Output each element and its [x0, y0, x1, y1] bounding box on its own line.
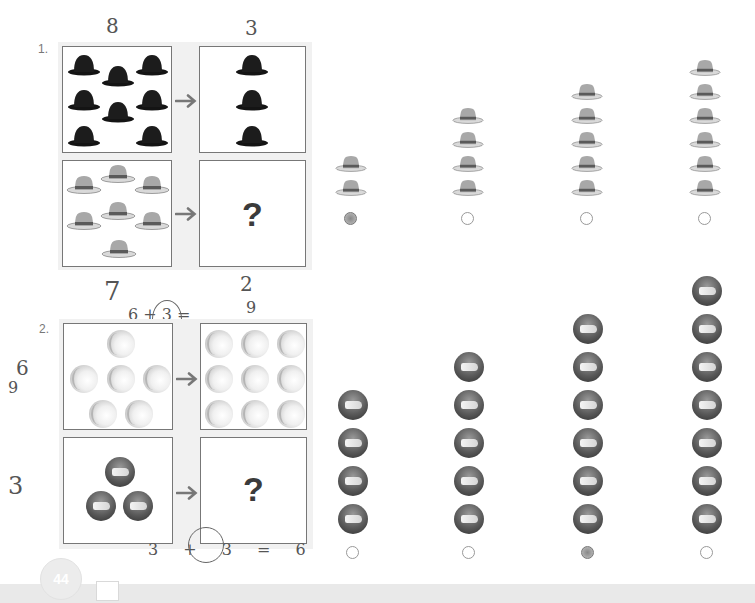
- option-radio[interactable]: [462, 546, 475, 559]
- dark-ball-icon: [338, 504, 368, 534]
- handwritten-note: 8: [106, 14, 119, 38]
- arrow-right-icon: [176, 486, 198, 500]
- dark-ball-icon: [338, 390, 368, 420]
- arrow-right-icon: [175, 207, 197, 221]
- dark-ball-icon: [692, 390, 722, 420]
- option-radio-selected[interactable]: [344, 212, 357, 225]
- dark-ball-icon: [573, 504, 603, 534]
- fedora-hat-icon: [452, 153, 484, 173]
- option-radio-selected[interactable]: [581, 546, 594, 559]
- bowler-hat-icon: [235, 123, 269, 147]
- dark-ball-icon: [573, 390, 603, 420]
- problem-1-option-3[interactable]: [571, 78, 605, 230]
- dark-ball-icon: [123, 491, 153, 521]
- bowler-hat-icon: [67, 52, 101, 76]
- problem-2-top-left-box: [63, 323, 173, 430]
- dark-ball-icon: [454, 390, 484, 420]
- bowler-hat-icon: [67, 87, 101, 111]
- problem-2-answer-box: ?: [200, 437, 307, 544]
- fedora-hat-icon: [689, 57, 721, 77]
- question-mark: ?: [201, 470, 306, 509]
- fedora-hat-icon: [571, 177, 603, 197]
- problem-2-option-3[interactable]: [572, 310, 604, 562]
- fedora-hat-icon: [571, 129, 603, 149]
- option-radio[interactable]: [346, 546, 359, 559]
- fedora-hat-icon: [134, 209, 170, 231]
- fedora-hat-icon: [689, 153, 721, 173]
- fedora-hat-icon: [689, 129, 721, 149]
- dark-ball-icon: [692, 466, 722, 496]
- handwritten-circle: [188, 527, 224, 563]
- light-ball-icon: [107, 365, 135, 393]
- dark-ball-icon: [338, 466, 368, 496]
- fedora-hat-icon: [452, 177, 484, 197]
- dark-ball-icon: [454, 352, 484, 382]
- problem-2-option-2[interactable]: [453, 348, 485, 562]
- problem-2-option-4[interactable]: [691, 272, 723, 562]
- fedora-hat-icon: [452, 129, 484, 149]
- bowler-hat-icon: [67, 123, 101, 147]
- arrow-right-icon: [175, 94, 197, 108]
- checkbox-square[interactable]: [96, 581, 119, 601]
- light-ball-icon: [205, 365, 233, 393]
- dark-ball-icon: [692, 314, 722, 344]
- option-radio[interactable]: [700, 546, 713, 559]
- problem-2-option-1[interactable]: [337, 386, 369, 562]
- bowler-hat-icon: [235, 87, 269, 111]
- bowler-hat-icon: [135, 87, 169, 111]
- light-ball-icon: [143, 365, 171, 393]
- dark-ball-icon: [692, 276, 722, 306]
- fedora-hat-icon: [134, 173, 170, 195]
- fedora-hat-icon: [100, 162, 136, 184]
- page-number-badge: 44: [40, 558, 82, 600]
- problem-2-top-right-box: [200, 323, 307, 430]
- fedora-hat-icon: [100, 199, 136, 221]
- dark-ball-icon: [573, 352, 603, 382]
- dark-ball-icon: [573, 428, 603, 458]
- light-ball-icon: [125, 400, 153, 428]
- fedora-hat-icon: [689, 81, 721, 101]
- light-ball-icon: [277, 365, 305, 393]
- handwritten-note: 7: [104, 276, 121, 306]
- question-mark: ?: [200, 195, 305, 234]
- fedora-hat-icon: [66, 209, 102, 231]
- option-radio[interactable]: [698, 212, 711, 225]
- handwritten-note: 9: [246, 298, 256, 317]
- option-radio[interactable]: [580, 212, 593, 225]
- handwritten-note: 6: [16, 356, 29, 380]
- dark-ball-icon: [692, 428, 722, 458]
- problem-1-option-1[interactable]: [335, 150, 369, 230]
- fedora-hat-icon: [571, 105, 603, 125]
- light-ball-icon: [205, 330, 233, 358]
- problem-1-option-4[interactable]: [689, 54, 723, 230]
- problem-1-option-2[interactable]: [452, 102, 486, 230]
- handwritten-note: 3: [245, 16, 258, 40]
- light-ball-icon: [277, 400, 305, 428]
- problem-1-number: 1.: [38, 42, 48, 56]
- bowler-hat-icon: [135, 123, 169, 147]
- problem-1-top-left-box: [62, 46, 172, 153]
- fedora-hat-icon: [571, 153, 603, 173]
- dark-ball-icon: [86, 491, 116, 521]
- light-ball-icon: [89, 400, 117, 428]
- dark-ball-icon: [454, 466, 484, 496]
- fedora-hat-icon: [452, 105, 484, 125]
- problem-1-bottom-left-box: [62, 160, 172, 267]
- fedora-hat-icon: [101, 237, 137, 259]
- light-ball-icon: [107, 330, 135, 358]
- handwritten-equation: 3 + 3 = 6: [148, 540, 316, 559]
- option-radio[interactable]: [461, 212, 474, 225]
- bowler-hat-icon: [101, 63, 135, 87]
- light-ball-icon: [241, 330, 269, 358]
- dark-ball-icon: [454, 504, 484, 534]
- bowler-hat-icon: [235, 52, 269, 76]
- fedora-hat-icon: [335, 153, 367, 173]
- dark-ball-icon: [454, 428, 484, 458]
- fedora-hat-icon: [66, 173, 102, 195]
- light-ball-icon: [205, 400, 233, 428]
- problem-1-answer-box: ?: [199, 160, 306, 267]
- page-number: 44: [53, 571, 69, 587]
- light-ball-icon: [70, 365, 98, 393]
- dark-ball-icon: [573, 466, 603, 496]
- dark-ball-icon: [692, 352, 722, 382]
